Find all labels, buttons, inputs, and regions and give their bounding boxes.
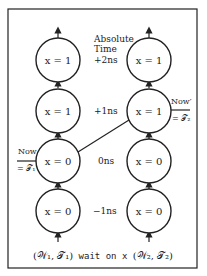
time-label-plus1: +1ns xyxy=(94,106,118,116)
node-label: x = 1 xyxy=(45,55,72,66)
caption-middle: wait on x xyxy=(73,251,133,261)
thread-2-column: x = 1 x = 1 x = 0 x = 0 xyxy=(127,30,171,242)
now-value: = 𝒯₁ xyxy=(17,164,35,173)
node-label: x = 1 xyxy=(45,106,72,117)
time-axis-title: Time xyxy=(94,44,117,54)
now-label: Now xyxy=(18,147,37,156)
now-marker-2: Now′ = 𝒯₂ xyxy=(171,97,192,123)
caption-right: (𝒲₂, 𝒯₂) xyxy=(133,250,173,261)
time-label-minus1: −1ns xyxy=(93,206,117,216)
thread-1-column: x = 1 x = 1 x = 0 x = 0 xyxy=(36,30,80,242)
wait-link xyxy=(78,120,129,152)
time-axis-title: Absolute xyxy=(93,34,134,44)
node-label: x = 0 xyxy=(136,206,163,217)
time-label-zero: 0ns xyxy=(98,156,115,166)
now-marker-1: Now = 𝒯₁ xyxy=(17,147,37,173)
causality-diagram: x = 1 x = 1 x = 0 x = 0 x = 1 x = 1 x = … xyxy=(0,0,207,276)
now-value: = 𝒯₂ xyxy=(172,114,190,123)
now-label: Now′ xyxy=(171,97,192,106)
node-label: x = 1 xyxy=(136,106,163,117)
time-label-plus2: +2ns xyxy=(94,55,118,65)
node-label: x = 0 xyxy=(136,156,163,167)
node-label: x = 1 xyxy=(136,55,163,66)
caption: (𝒲₁, 𝒯₁) wait on x (𝒲₂, 𝒯₂) xyxy=(33,250,173,261)
node-label: x = 0 xyxy=(45,156,72,167)
caption-left: (𝒲₁, 𝒯₁) xyxy=(33,250,73,261)
node-label: x = 0 xyxy=(45,206,72,217)
